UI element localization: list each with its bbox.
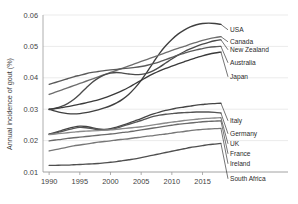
- series-line-usa: [49, 23, 221, 114]
- x-axis-tick-labels: 199019952000200520102015: [41, 177, 211, 186]
- y-axis-title: Annual incidence of gout (%): [5, 58, 14, 150]
- series-line-japan: [49, 52, 221, 109]
- y-tick-label-1: 0.02: [24, 136, 38, 145]
- series-label-australia: Australia: [230, 59, 256, 66]
- y-tick-label-4: 0.05: [24, 42, 38, 51]
- y-tick-label-2: 0.03: [24, 105, 38, 114]
- x-tick-label-5: 2015: [194, 177, 210, 186]
- series-label-japan: Japan: [230, 73, 248, 81]
- series-lines: [49, 23, 221, 165]
- series-label-germany: Germany: [230, 130, 258, 138]
- series-inline-labels: USACanadaNew ZealandAustraliaJapanItalyG…: [221, 24, 269, 182]
- y-tick-label-5: 0.06: [24, 11, 38, 20]
- series-line-australia: [49, 46, 221, 84]
- series-label-usa: USA: [230, 26, 244, 33]
- series-line-canada: [49, 37, 221, 95]
- series-label-south-africa: South Africa: [230, 175, 266, 182]
- series-label-france: France: [230, 150, 251, 157]
- series-label-new-zealand: New Zealand: [230, 46, 269, 53]
- series-label-ireland: Ireland: [230, 160, 250, 167]
- x-tick-label-4: 2010: [164, 177, 180, 186]
- series-line-south-africa: [49, 143, 221, 165]
- leader-line-usa: [221, 24, 228, 29]
- x-tick-label-3: 2005: [133, 177, 149, 186]
- x-tick-label-0: 1990: [41, 177, 57, 186]
- x-tick-label-2: 2000: [102, 177, 118, 186]
- series-label-uk: UK: [230, 140, 240, 147]
- y-axis-tick-labels: 0.010.020.030.040.050.06: [24, 11, 38, 177]
- leader-line-ireland: [221, 128, 228, 163]
- gout-incidence-line-chart: 0.010.020.030.040.050.06 199019952000200…: [0, 0, 298, 204]
- x-tick-label-1: 1995: [72, 177, 88, 186]
- leader-line-japan: [221, 52, 228, 77]
- series-label-italy: Italy: [230, 117, 243, 125]
- chart-canvas: 0.010.020.030.040.050.06 199019952000200…: [0, 0, 298, 204]
- series-label-canada: Canada: [230, 38, 253, 45]
- leader-line-italy: [221, 103, 228, 121]
- y-tick-label-0: 0.01: [24, 168, 38, 177]
- y-tick-label-3: 0.04: [24, 73, 38, 82]
